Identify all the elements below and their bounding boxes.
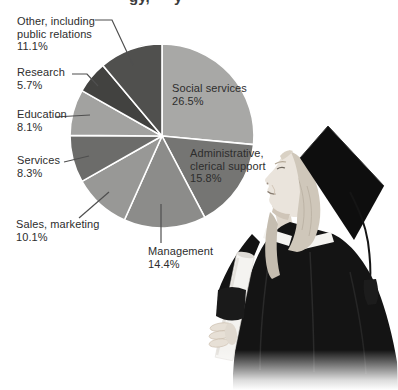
hand-dark-wrap: [216, 287, 246, 321]
label-sales-marketing: Sales, marketing 10.1%: [16, 218, 100, 243]
label-line: clerical support: [190, 160, 266, 173]
label-line: public relations: [17, 28, 95, 41]
label-pct: 8.1%: [17, 121, 67, 134]
label-line: Administrative,: [190, 147, 266, 160]
label-pct: 11.1%: [17, 40, 95, 53]
label-line: Sales, marketing: [16, 218, 100, 231]
label-pct: 10.1%: [16, 231, 100, 244]
label-pct: 8.3%: [17, 167, 60, 180]
label-line: Other, including: [17, 15, 95, 28]
label-line: Services: [17, 154, 60, 167]
label-pct: 5.7%: [17, 79, 65, 92]
label-pct: 14.4%: [148, 258, 213, 271]
label-line: Research: [17, 66, 65, 79]
label-pct: 15.8%: [190, 172, 266, 185]
label-administrative: Administrative, clerical support 15.8%: [190, 147, 266, 185]
label-pct: 26.5%: [172, 95, 247, 108]
label-management: Management 14.4%: [148, 245, 213, 270]
label-social-services: Social services 26.5%: [172, 82, 247, 107]
photo-bottom-fade: [200, 350, 398, 390]
label-other: Other, including public relations 11.1%: [17, 15, 95, 53]
label-line: Management: [148, 245, 213, 258]
label-services: Services 8.3%: [17, 154, 60, 179]
nostril: [267, 183, 269, 185]
label-education: Education 8.1%: [17, 108, 67, 133]
label-line: Education: [17, 108, 67, 121]
figure-page: gy, y: [0, 0, 398, 390]
label-research: Research 5.7%: [17, 66, 65, 91]
label-line: Social services: [172, 82, 247, 95]
